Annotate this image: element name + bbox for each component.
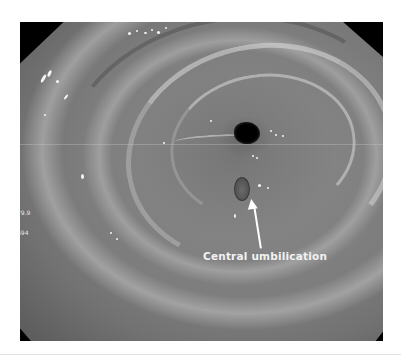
specular-highlight bbox=[234, 214, 236, 218]
annotation-label: Central umbilication bbox=[203, 250, 327, 262]
specular-highlight bbox=[151, 29, 153, 31]
endoscopic-view: Central umbilication 79.9 694 bbox=[20, 22, 383, 341]
specular-highlight bbox=[267, 187, 269, 189]
specular-highlight bbox=[81, 174, 84, 179]
specular-highlight bbox=[40, 74, 47, 83]
specular-highlight bbox=[165, 27, 167, 29]
specular-highlight bbox=[63, 94, 68, 100]
specular-highlight bbox=[258, 184, 261, 187]
lesion-umbilication bbox=[234, 177, 250, 201]
device-overlay-value-1: 79.9 bbox=[20, 209, 30, 216]
specular-highlight bbox=[275, 134, 277, 136]
specular-highlight bbox=[144, 32, 147, 34]
specular-highlight bbox=[282, 135, 284, 137]
specular-highlight bbox=[110, 232, 112, 234]
specular-highlight bbox=[252, 155, 254, 157]
specular-highlight bbox=[256, 157, 258, 159]
specular-highlight bbox=[116, 238, 118, 240]
endoscopy-image-frame: Central umbilication 79.9 694 bbox=[20, 22, 383, 341]
lumen-opening bbox=[234, 122, 260, 144]
scan-line-artifact bbox=[20, 144, 383, 145]
specular-highlight bbox=[163, 142, 165, 144]
specular-highlight bbox=[210, 120, 212, 122]
specular-highlight bbox=[44, 114, 46, 116]
arrow-head-icon bbox=[246, 198, 257, 209]
specular-highlight bbox=[270, 130, 272, 132]
device-overlay-value-2: 694 bbox=[20, 229, 28, 236]
specular-highlight bbox=[56, 80, 59, 83]
specular-highlight bbox=[136, 30, 138, 32]
specular-highlight bbox=[157, 31, 160, 34]
specular-highlight bbox=[47, 70, 53, 78]
divider bbox=[0, 354, 401, 355]
specular-highlight bbox=[128, 32, 131, 35]
